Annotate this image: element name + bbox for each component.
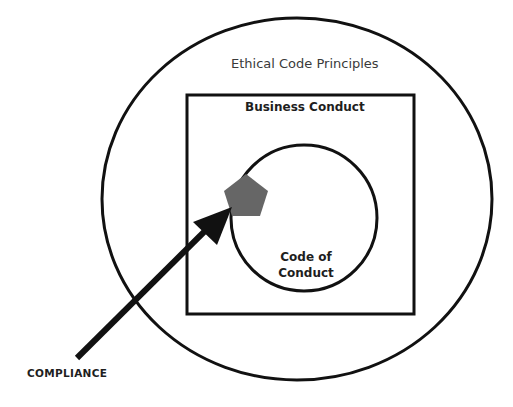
square-label: Business Conduct <box>245 100 365 114</box>
inner-circle-label-line2: Conduct <box>276 265 336 281</box>
outer-circle-label: Ethical Code Principles <box>231 56 379 71</box>
inner-circle-label: Code of Conduct <box>276 249 336 281</box>
compliance-arrow-shaft <box>77 226 210 358</box>
compliance-label: COMPLIANCE <box>27 367 107 379</box>
inner-circle-label-line1: Code of <box>276 249 336 265</box>
